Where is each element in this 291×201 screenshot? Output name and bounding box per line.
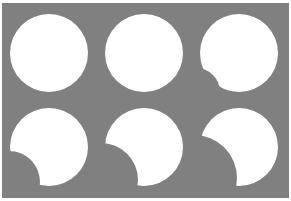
stimulus-disc-bottom-left — [10, 108, 88, 186]
stimulus-disc-bottom-right — [200, 108, 278, 186]
stimulus-disc-bottom-middle — [105, 108, 183, 186]
disc-body — [10, 14, 88, 92]
stimulus-figure — [0, 0, 291, 201]
disc-body — [105, 108, 183, 186]
stimulus-disc-top-right — [200, 14, 278, 92]
disc-body — [10, 108, 88, 186]
disc-body — [200, 108, 278, 186]
disc-body — [105, 14, 183, 92]
stimulus-disc-top-middle — [105, 14, 183, 92]
stimulus-disc-top-left — [10, 14, 88, 92]
disc-body — [200, 14, 278, 92]
stimulus-canvas — [0, 0, 291, 201]
